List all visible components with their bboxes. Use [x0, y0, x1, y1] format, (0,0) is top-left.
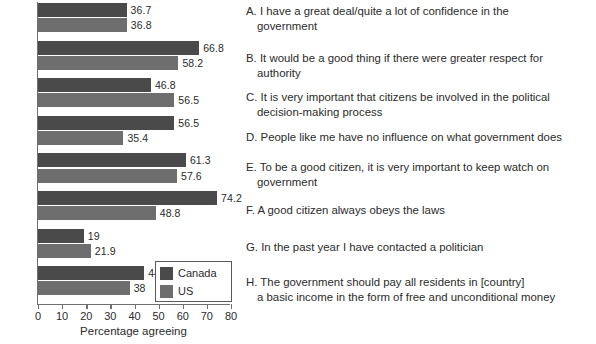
x-tick-label: 30	[104, 310, 116, 322]
bar-value-label: 38	[134, 282, 146, 294]
bar-value-label: 46.8	[155, 79, 176, 91]
x-tick-label: 70	[201, 310, 213, 322]
bar-row: 56.5	[38, 116, 238, 130]
bar-group-b: 66.858.2	[38, 41, 238, 79]
bar-row: 57.6	[38, 169, 238, 183]
x-tick-mark	[38, 304, 39, 309]
bar-groups: 36.736.866.858.246.856.556.535.461.357.6…	[38, 3, 238, 304]
key-item-text: To be a good citizen, it is very importa…	[260, 161, 549, 173]
key-item-h: H. The government should pay all residen…	[246, 275, 594, 304]
x-tick-label: 40	[128, 310, 140, 322]
bar-d-canada	[38, 116, 174, 130]
key-item-text: In the past year I have contacted a poli…	[261, 241, 483, 253]
key-item-text-line2: government	[246, 19, 594, 34]
bar-row: 46.8	[38, 78, 238, 92]
bar-group-e: 61.357.6	[38, 153, 238, 191]
bar-chart: 36.736.866.858.246.856.556.535.461.357.6…	[0, 0, 596, 344]
bar-group-f: 74.248.8	[38, 191, 238, 229]
x-tick-label: 50	[153, 310, 165, 322]
x-tick-mark	[183, 304, 184, 309]
bar-d-us	[38, 131, 123, 145]
bar-c-canada	[38, 78, 151, 92]
x-tick-mark	[135, 304, 136, 309]
x-tick-label: 80	[225, 310, 237, 322]
key-item-text: The government should pay all residents …	[260, 276, 524, 288]
key-item-text: It is very important that citizens be in…	[261, 91, 550, 103]
x-tick-mark	[86, 304, 87, 309]
key-item-text-line2: decision-making process	[246, 105, 594, 120]
x-tick-label: 10	[56, 310, 68, 322]
bar-h-canada	[38, 266, 144, 280]
bar-value-label: 36.8	[131, 19, 152, 31]
key-item-letter: E.	[246, 161, 260, 173]
bar-row: 66.8	[38, 41, 238, 55]
bar-e-canada	[38, 153, 186, 167]
x-tick-mark	[207, 304, 208, 309]
bar-b-canada	[38, 41, 199, 55]
bar-e-us	[38, 169, 177, 183]
bar-a-canada	[38, 3, 127, 17]
bar-a-us	[38, 18, 127, 32]
key-item-text: A good citizen always obeys the laws	[257, 204, 444, 216]
bar-value-label: 19	[88, 230, 100, 242]
key-item-text-line2: authority	[246, 66, 594, 81]
x-tick-mark	[231, 304, 232, 309]
key-item-letter: D.	[246, 131, 261, 143]
key-item-text-line2: government	[246, 175, 594, 190]
bar-b-us	[38, 56, 178, 70]
bar-value-label: 61.3	[190, 154, 211, 166]
key-item-text-line2: a basic income in the form of free and u…	[246, 290, 594, 305]
bar-value-label: 21.9	[95, 245, 116, 257]
x-tick-label: 0	[35, 310, 41, 322]
key-item-letter: G.	[246, 241, 261, 253]
bar-row: 36.8	[38, 18, 238, 32]
bar-row: 74.2	[38, 191, 238, 205]
key-item-f: F. A good citizen always obeys the laws	[246, 203, 594, 218]
key-item-text: People like me have no influence on what…	[261, 131, 562, 143]
key-item-letter: A.	[246, 5, 260, 17]
bar-f-us	[38, 206, 156, 220]
bar-g-us	[38, 244, 91, 258]
x-tick-mark	[159, 304, 160, 309]
bar-f-canada	[38, 191, 217, 205]
key-item-g: G. In the past year I have contacted a p…	[246, 240, 594, 255]
us-swatch-icon	[160, 285, 173, 298]
key-item-b: B. It would be a good thing if there wer…	[246, 51, 594, 80]
bar-value-label: 57.6	[181, 170, 202, 182]
bar-value-label: 66.8	[203, 42, 224, 54]
key-item-d: D. People like me have no influence on w…	[246, 130, 594, 145]
bar-value-label: 48.8	[160, 207, 181, 219]
key-item-letter: C.	[246, 91, 261, 103]
bar-value-label: 74.2	[221, 192, 242, 204]
bar-row: 48.8	[38, 206, 238, 220]
key-item-letter: H.	[246, 276, 260, 288]
bar-h-us	[38, 281, 130, 295]
bar-group-a: 36.736.8	[38, 3, 238, 41]
canada-swatch-icon	[160, 267, 173, 280]
bar-g-canada	[38, 229, 84, 243]
bar-row: 19	[38, 229, 238, 243]
bar-row: 58.2	[38, 56, 238, 70]
x-tick-mark	[62, 304, 63, 309]
bar-row: 35.4	[38, 131, 238, 145]
bar-row: 61.3	[38, 153, 238, 167]
key-item-a: A. I have a great deal/quite a lot of co…	[246, 4, 594, 33]
bar-value-label: 56.5	[178, 94, 199, 106]
x-tick-label: 20	[80, 310, 92, 322]
bar-group-d: 56.535.4	[38, 116, 238, 154]
chart-legend: Canada US	[155, 261, 232, 302]
legend-item-us: US	[160, 283, 227, 299]
key-item-text: I have a great deal/quite a lot of confi…	[260, 5, 509, 17]
bar-value-label: 56.5	[178, 117, 199, 129]
key-item-e: E. To be a good citizen, it is very impo…	[246, 160, 594, 189]
bar-row: 36.7	[38, 3, 238, 17]
key-item-c: C. It is very important that citizens be…	[246, 90, 594, 119]
x-axis-ticks: 01020304050607080	[0, 304, 240, 326]
bar-value-label: 35.4	[127, 132, 148, 144]
bar-value-label: 58.2	[182, 57, 203, 69]
key-item-letter: B.	[246, 52, 260, 64]
legend-label-us: US	[178, 285, 193, 297]
bar-row: 21.9	[38, 244, 238, 258]
category-key-list: A. I have a great deal/quite a lot of co…	[246, 0, 596, 344]
bar-value-label: 36.7	[131, 4, 152, 16]
